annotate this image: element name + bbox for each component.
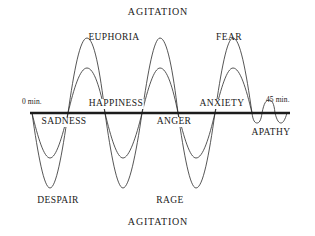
axis-end-time-label: 45 min. [266, 96, 290, 104]
emotion-wave-diagram: AGITATION AGITATION 0 min. 45 min. EUPHO… [0, 0, 315, 236]
label-euphoria: EUPHORIA [88, 33, 139, 43]
label-anger: ANGER [156, 117, 193, 127]
label-rage: RAGE [156, 196, 183, 206]
top-title: AGITATION [128, 7, 188, 17]
axis-start-time-label: 0 min. [22, 98, 42, 106]
label-sadness: SADNESS [40, 117, 87, 127]
label-despair: DESPAIR [37, 196, 79, 206]
bottom-title: AGITATION [128, 217, 188, 227]
label-happiness: HAPPINESS [88, 99, 144, 109]
label-apathy: APATHY [251, 128, 290, 138]
label-fear: FEAR [216, 33, 242, 43]
label-anxiety: ANXIETY [198, 99, 245, 109]
